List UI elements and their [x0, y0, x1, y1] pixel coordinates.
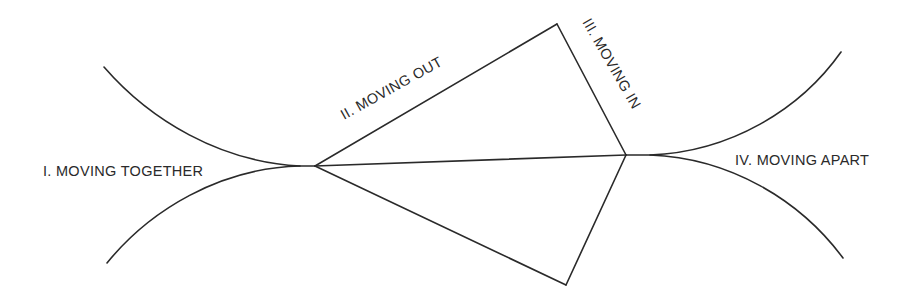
converging-top-curve	[104, 67, 315, 166]
label-moving-out: II. MOVING OUT	[338, 53, 445, 122]
phase-diagram: I. MOVING TOGETHER II. MOVING OUT III. M…	[0, 0, 924, 301]
lower-right-edge	[566, 155, 626, 285]
label-moving-apart: IV. MOVING APART	[735, 152, 869, 168]
diverging-top-curve	[626, 52, 841, 155]
moving-out-edge	[315, 24, 557, 166]
label-moving-together: I. MOVING TOGETHER	[43, 163, 203, 179]
converging-bottom-curve	[107, 166, 300, 263]
horizontal-axis-edge	[315, 155, 626, 166]
diverging-bottom-curve	[650, 155, 843, 258]
lower-left-edge	[315, 166, 566, 285]
label-moving-in: III. MOVING IN	[579, 16, 644, 112]
